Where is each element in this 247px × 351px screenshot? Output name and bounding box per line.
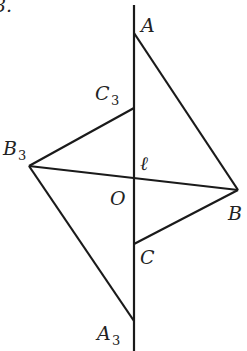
figure-svg: 3. A C 3 B 3 ℓ O B C A 3 [0, 0, 247, 351]
label-A: A [139, 14, 155, 36]
svg-text:3: 3 [18, 148, 26, 163]
svg-text:3: 3 [112, 333, 120, 348]
segment-AB [134, 33, 238, 190]
label-B3: B 3 [2, 137, 26, 163]
svg-text:C: C [95, 82, 110, 104]
label-C: C [140, 246, 155, 268]
geometry-figure: 3. A C 3 B 3 ℓ O B C A 3 [0, 0, 247, 351]
segment-BC [134, 190, 238, 244]
label-l: ℓ [140, 152, 148, 174]
label-A3: A 3 [95, 322, 120, 348]
label-C3: C 3 [95, 82, 119, 108]
svg-text:3: 3 [111, 93, 119, 108]
svg-text:A: A [95, 322, 111, 344]
label-O: O [110, 187, 126, 209]
svg-text:B: B [2, 137, 17, 159]
figure-number-partial: 3. [0, 0, 12, 16]
label-B: B [227, 202, 242, 224]
segment-C3B3 [29, 108, 134, 166]
